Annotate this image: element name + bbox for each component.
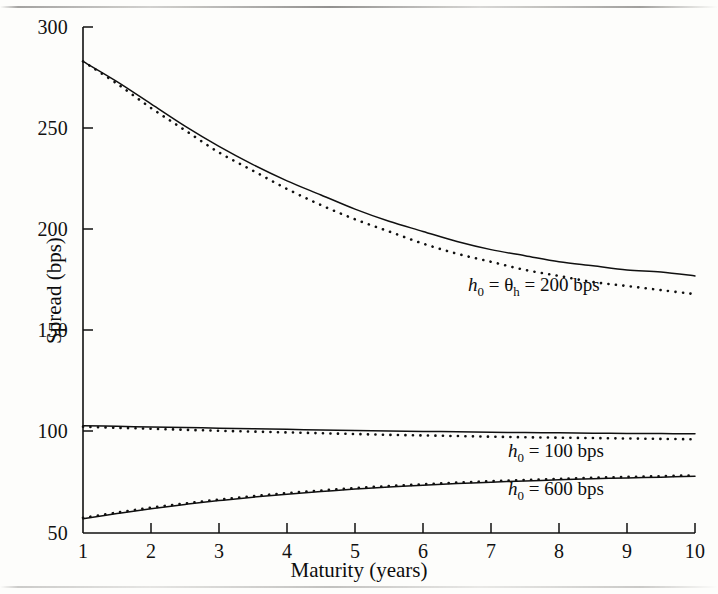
annot-equals-0: = xyxy=(489,274,500,295)
series-line-0 xyxy=(83,61,695,276)
series-annotation-200bps: h0 = θh = 200 bps xyxy=(468,274,600,300)
series-line-2 xyxy=(83,426,695,434)
chart-plot-area xyxy=(0,0,718,594)
y-tick-label-100: 100 xyxy=(16,420,68,443)
y-axis-ticks xyxy=(83,27,93,431)
y-tick-label-250: 250 xyxy=(16,117,68,140)
annot-var-h-1: h xyxy=(508,440,518,461)
annot-sub-0: 0 xyxy=(478,284,484,299)
figure-page: 300 250 200 150 100 50 1 2 3 4 5 6 7 8 9… xyxy=(0,0,718,594)
series-line-1 xyxy=(83,61,695,294)
series-annotation-100bps: h0 = 100 bps xyxy=(508,440,604,466)
annot-theta-0: θ xyxy=(504,274,513,295)
y-tick-label-50: 50 xyxy=(16,522,68,545)
annot-tail-2: = 600 bps xyxy=(529,478,604,499)
annot-theta-sub-0: h xyxy=(513,284,519,299)
series-annotation-600bps: h0 = 600 bps xyxy=(508,478,604,504)
x-axis-title: Maturity (years) xyxy=(0,558,718,583)
annot-tail-0: = 200 bps xyxy=(524,274,599,295)
annot-var-h-0: h xyxy=(468,274,478,295)
x-axis-ticks xyxy=(151,523,695,533)
annot-sub-1: 0 xyxy=(518,450,524,465)
annot-sub-2: 0 xyxy=(518,488,524,503)
y-tick-label-300: 300 xyxy=(16,16,68,39)
annot-tail-1: = 100 bps xyxy=(529,440,604,461)
annot-var-h-2: h xyxy=(508,478,518,499)
y-axis-title: Spread (bps) xyxy=(42,191,67,391)
